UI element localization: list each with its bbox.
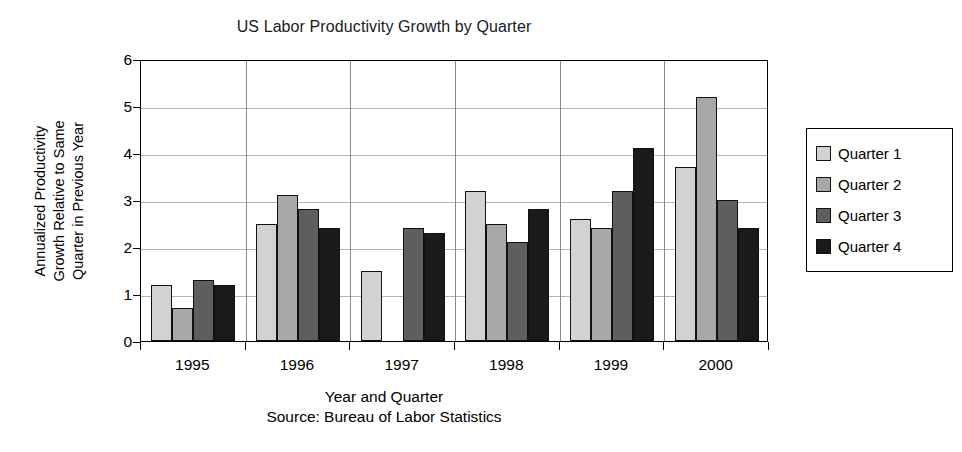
x-axis-tick-mark	[559, 342, 560, 350]
y-axis-tick-mark	[133, 295, 140, 296]
x-axis-tick-label: 1999	[571, 356, 651, 374]
bar-group	[141, 61, 246, 341]
x-axis-tick-label: 1997	[362, 356, 442, 374]
x-axis-title: Year and Quarter	[0, 388, 768, 406]
x-axis-tick-mark	[768, 342, 769, 350]
bar-chart: US Labor Productivity Growth by Quarter …	[0, 0, 962, 452]
x-axis-tick-label: 1998	[466, 356, 546, 374]
bar[interactable]	[570, 219, 591, 341]
bar[interactable]	[214, 285, 235, 341]
bar[interactable]	[633, 148, 654, 341]
bar[interactable]	[612, 191, 633, 341]
bar[interactable]	[319, 228, 340, 341]
x-axis-tick-mark	[245, 342, 246, 350]
y-axis-tick-mark	[133, 201, 140, 202]
legend-item: Quarter 2	[816, 169, 944, 200]
legend-item: Quarter 3	[816, 200, 944, 231]
x-axis-tick-label: 2000	[676, 356, 756, 374]
x-axis-tick-label: 1996	[257, 356, 337, 374]
y-axis-tick-mark	[133, 248, 140, 249]
legend-label-quarter-4: Quarter 4	[838, 238, 901, 255]
y-axis-tick-mark	[133, 154, 140, 155]
y-axis-tick-label: 5	[106, 98, 132, 116]
legend-swatch-quarter-4	[816, 239, 831, 254]
source-note: Source: Bureau of Labor Statistics	[0, 408, 768, 426]
plot-area	[140, 60, 768, 342]
legend-swatch-quarter-2	[816, 177, 831, 192]
bar[interactable]	[298, 209, 319, 341]
bar-group	[246, 61, 351, 341]
bar-group	[455, 61, 560, 341]
legend-label-quarter-1: Quarter 1	[838, 145, 901, 162]
bar[interactable]	[382, 339, 403, 341]
legend-label-quarter-2: Quarter 2	[838, 176, 901, 193]
legend-item: Quarter 4	[816, 231, 944, 262]
bar[interactable]	[717, 200, 738, 341]
y-axis-tick-mark	[133, 107, 140, 108]
bar[interactable]	[738, 228, 759, 341]
legend-swatch-quarter-1	[816, 146, 831, 161]
y-axis-tick-label: 3	[106, 192, 132, 210]
bar[interactable]	[507, 242, 528, 341]
bar[interactable]	[151, 285, 172, 341]
chart-title: US Labor Productivity Growth by Quarter	[0, 18, 768, 36]
bar[interactable]	[696, 97, 717, 341]
bar-group	[664, 61, 769, 341]
y-axis-tick-mark	[133, 342, 140, 343]
bar[interactable]	[465, 191, 486, 341]
legend-item: Quarter 1	[816, 138, 944, 169]
x-axis-tick-mark	[663, 342, 664, 350]
bar-group	[560, 61, 665, 341]
bar[interactable]	[486, 224, 507, 342]
bar[interactable]	[591, 228, 612, 341]
x-axis-tick-mark	[140, 342, 141, 350]
legend-label-quarter-3: Quarter 3	[838, 207, 901, 224]
x-axis-tick-mark	[349, 342, 350, 350]
bar[interactable]	[256, 224, 277, 342]
bar[interactable]	[528, 209, 549, 341]
y-axis-tick-label: 1	[106, 286, 132, 304]
bar[interactable]	[403, 228, 424, 341]
y-axis-title-line-3: Quarter in Previous Year	[69, 60, 88, 342]
bar[interactable]	[172, 308, 193, 341]
y-axis-title-line-1: Annualized Productivity	[31, 60, 50, 342]
y-axis-tick-mark	[133, 60, 140, 61]
y-axis-title-line-2: Growth Relative to Same	[50, 60, 69, 342]
bar[interactable]	[193, 280, 214, 341]
y-axis-tick-label: 6	[106, 51, 132, 69]
y-axis-tick-label: 2	[106, 239, 132, 257]
y-axis-tick-label: 4	[106, 145, 132, 163]
bar[interactable]	[277, 195, 298, 341]
legend: Quarter 1 Quarter 2 Quarter 3 Quarter 4	[806, 128, 953, 272]
y-axis-tick-label: 0	[106, 333, 132, 351]
bar[interactable]	[675, 167, 696, 341]
bar[interactable]	[361, 271, 382, 342]
bar-group	[350, 61, 455, 341]
x-axis-tick-mark	[454, 342, 455, 350]
y-axis-title: Annualized Productivity Growth Relative …	[20, 60, 98, 342]
x-axis-tick-label: 1995	[152, 356, 232, 374]
legend-swatch-quarter-3	[816, 208, 831, 223]
bar[interactable]	[424, 233, 445, 341]
